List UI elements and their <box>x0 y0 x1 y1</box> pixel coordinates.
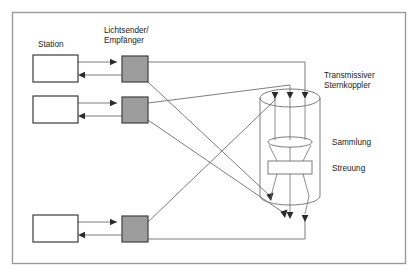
label-transceiver-line1: Lichtsender/ <box>104 26 149 35</box>
transceiver-box-3[interactable] <box>122 216 148 242</box>
station-box-3[interactable] <box>33 215 78 242</box>
label-collection: Sammlung <box>332 138 372 147</box>
label-station: Station <box>38 40 64 49</box>
station-box-1[interactable] <box>33 55 78 82</box>
label-star-coupler-line1: Transmissiver <box>324 71 375 80</box>
figure-canvas: Station Lichtsender/ Empfänger Transmiss… <box>0 0 418 276</box>
label-transceiver-line2: Empfänger <box>104 36 144 45</box>
transceiver-box-1[interactable] <box>122 56 148 82</box>
network-diagram: Station Lichtsender/ Empfänger Transmiss… <box>0 0 418 276</box>
label-star-coupler-line2: Sternkoppler <box>324 81 371 90</box>
station-box-2[interactable] <box>33 96 78 123</box>
transceiver-box-2[interactable] <box>122 97 148 123</box>
label-scattering: Streuung <box>332 164 366 173</box>
scattering-block <box>268 161 312 174</box>
